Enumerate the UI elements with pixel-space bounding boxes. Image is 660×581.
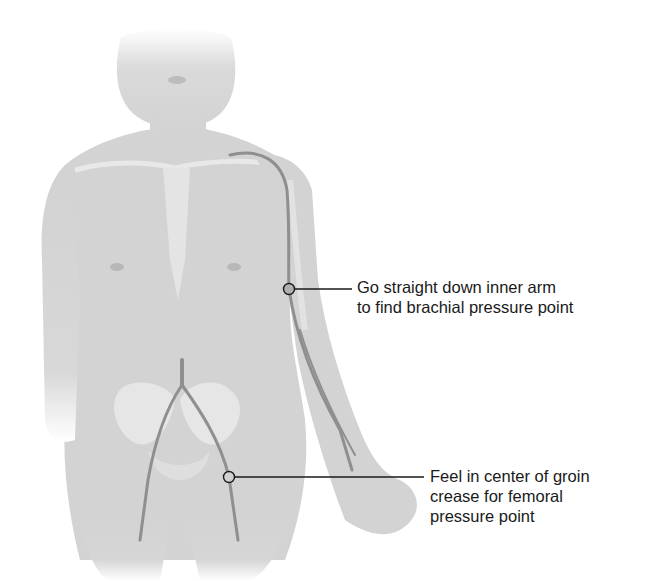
brachial-pressure-point-label: Go straight down inner arm to find brach… [357,277,573,317]
nipple-right [227,263,241,271]
pressure-point-marker-femoral [224,472,235,483]
femoral-label-line-2: crease for femoral [430,486,590,506]
brachial-label-line-1: Go straight down inner arm [357,277,573,297]
pressure-point-marker-brachial [284,284,295,295]
femoral-pressure-point-label: Feel in center of groin crease for femor… [430,466,590,526]
brachial-label-line-2: to find brachial pressure point [357,297,573,317]
mouth [168,76,186,84]
femoral-label-line-1: Feel in center of groin [430,466,590,486]
torso [62,128,306,560]
nipple-left [110,263,124,271]
femoral-label-line-3: pressure point [430,506,590,526]
